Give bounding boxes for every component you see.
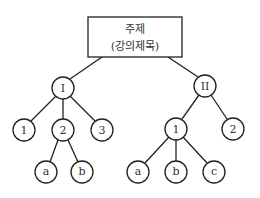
edge-II-2 <box>211 95 227 119</box>
node-I-2-b-label: b <box>78 165 85 178</box>
edge-I2-a <box>50 140 58 162</box>
edge-II1-a <box>145 137 169 163</box>
node-II-label: II <box>201 80 210 93</box>
node-II-1-a-label: a <box>135 165 142 178</box>
root-title: 주제 <box>125 23 145 36</box>
node-II-1-c-label: c <box>211 165 217 178</box>
edge-root-II <box>168 57 198 77</box>
node-I-label: I <box>61 82 65 95</box>
node-I-1-label: 1 <box>21 124 28 137</box>
node-II-2-label: 2 <box>230 123 237 136</box>
node-I-3: 3 <box>91 119 113 141</box>
edge-II1-c <box>183 137 207 163</box>
node-II: II <box>194 75 216 97</box>
node-II-1-a: a <box>127 161 149 183</box>
node-I-2-b: b <box>71 161 93 183</box>
root-subtitle: (강의제목) <box>111 40 160 53</box>
edge-I2-b <box>68 140 78 162</box>
node-II-1-label: 1 <box>173 123 180 136</box>
node-I-2-a-label: a <box>43 165 50 178</box>
root-node: 주제 (강의제목) <box>88 17 182 57</box>
edge-root-I <box>70 57 102 79</box>
topic-tree-diagram: 주제 (강의제목) I II 1 2 3 1 2 a b <box>0 0 260 198</box>
edge-II-1 <box>182 95 199 119</box>
node-I-2: 2 <box>52 119 74 141</box>
node-II-2: 2 <box>222 118 244 140</box>
node-II-1-c: c <box>203 161 225 183</box>
node-I-2-a: a <box>35 161 57 183</box>
edge-I-1 <box>31 96 56 121</box>
node-II-1: 1 <box>165 118 187 140</box>
node-I-1: 1 <box>13 119 35 141</box>
node-I: I <box>52 77 74 99</box>
node-I-2-label: 2 <box>60 124 67 137</box>
node-I-3-label: 3 <box>99 124 106 137</box>
tree-edges <box>31 57 227 163</box>
node-II-1-b: b <box>165 161 187 183</box>
node-II-1-b-label: b <box>172 165 179 178</box>
edge-I-3 <box>70 96 95 121</box>
